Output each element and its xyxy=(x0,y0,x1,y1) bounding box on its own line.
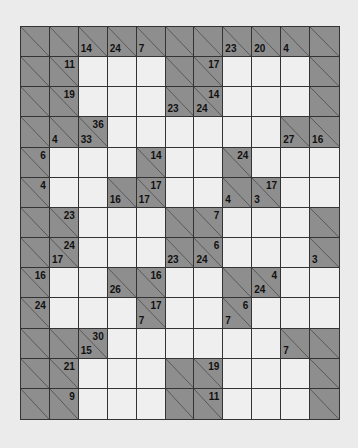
entry-cell[interactable] xyxy=(281,57,310,87)
entry-cell[interactable] xyxy=(108,57,137,87)
entry-cell[interactable] xyxy=(137,329,166,359)
blocked-cell xyxy=(21,238,50,268)
entry-cell[interactable] xyxy=(252,208,281,238)
across-clue: 17 xyxy=(266,181,277,191)
diagonal-divider-icon xyxy=(310,389,339,419)
entry-cell[interactable] xyxy=(108,117,137,147)
blocked-cell xyxy=(166,27,195,57)
entry-cell[interactable] xyxy=(50,268,79,298)
entry-cell[interactable] xyxy=(223,57,252,87)
entry-cell[interactable] xyxy=(252,148,281,178)
down-clue: 23 xyxy=(168,104,179,114)
entry-cell[interactable] xyxy=(281,268,310,298)
entry-cell[interactable] xyxy=(50,148,79,178)
entry-cell[interactable] xyxy=(79,57,108,87)
entry-cell[interactable] xyxy=(223,329,252,359)
diagonal-divider-icon xyxy=(21,389,49,419)
entry-cell[interactable] xyxy=(50,178,79,208)
entry-cell[interactable] xyxy=(281,148,310,178)
entry-cell[interactable] xyxy=(166,148,195,178)
entry-cell[interactable] xyxy=(79,298,108,328)
entry-cell[interactable] xyxy=(137,359,166,389)
entry-cell[interactable] xyxy=(79,208,108,238)
down-clue: 16 xyxy=(110,195,121,205)
entry-cell[interactable] xyxy=(223,208,252,238)
entry-cell[interactable] xyxy=(79,148,108,178)
entry-cell[interactable] xyxy=(166,298,195,328)
entry-cell[interactable] xyxy=(252,329,281,359)
entry-cell[interactable] xyxy=(252,298,281,328)
entry-cell[interactable] xyxy=(50,298,79,328)
entry-cell[interactable] xyxy=(281,87,310,117)
entry-cell[interactable] xyxy=(281,389,310,419)
diagonal-divider-icon xyxy=(310,27,339,56)
entry-cell[interactable] xyxy=(137,238,166,268)
clue-cell: 624 xyxy=(194,238,223,268)
entry-cell[interactable] xyxy=(166,329,195,359)
entry-cell[interactable] xyxy=(281,238,310,268)
entry-cell[interactable] xyxy=(252,238,281,268)
entry-cell[interactable] xyxy=(108,238,137,268)
clue-cell: 7 xyxy=(137,27,166,57)
clue-cell: 16 xyxy=(137,268,166,298)
entry-cell[interactable] xyxy=(310,268,339,298)
entry-cell[interactable] xyxy=(108,148,137,178)
entry-cell[interactable] xyxy=(194,268,223,298)
entry-cell[interactable] xyxy=(223,389,252,419)
clue-cell: 9 xyxy=(50,389,79,419)
entry-cell[interactable] xyxy=(166,178,195,208)
entry-cell[interactable] xyxy=(137,208,166,238)
entry-cell[interactable] xyxy=(137,117,166,147)
entry-cell[interactable] xyxy=(310,178,339,208)
entry-cell[interactable] xyxy=(194,298,223,328)
entry-cell[interactable] xyxy=(252,117,281,147)
blocked-cell xyxy=(194,27,223,57)
blocked-cell xyxy=(21,389,50,419)
entry-cell[interactable] xyxy=(281,178,310,208)
entry-cell[interactable] xyxy=(252,359,281,389)
entry-cell[interactable] xyxy=(79,238,108,268)
entry-cell[interactable] xyxy=(310,298,339,328)
entry-cell[interactable] xyxy=(108,87,137,117)
clue-cell: 2417 xyxy=(50,238,79,268)
entry-cell[interactable] xyxy=(108,208,137,238)
across-clue: 19 xyxy=(64,90,75,100)
entry-cell[interactable] xyxy=(137,389,166,419)
entry-cell[interactable] xyxy=(194,329,223,359)
entry-cell[interactable] xyxy=(79,87,108,117)
entry-cell[interactable] xyxy=(310,148,339,178)
entry-cell[interactable] xyxy=(108,329,137,359)
blocked-cell xyxy=(310,57,339,87)
entry-cell[interactable] xyxy=(194,117,223,147)
entry-cell[interactable] xyxy=(281,208,310,238)
entry-cell[interactable] xyxy=(194,148,223,178)
entry-cell[interactable] xyxy=(137,57,166,87)
across-clue: 17 xyxy=(150,301,161,311)
down-clue: 7 xyxy=(139,44,145,54)
entry-cell[interactable] xyxy=(137,87,166,117)
entry-cell[interactable] xyxy=(166,268,195,298)
entry-cell[interactable] xyxy=(281,298,310,328)
entry-cell[interactable] xyxy=(79,389,108,419)
entry-cell[interactable] xyxy=(223,87,252,117)
entry-cell[interactable] xyxy=(252,57,281,87)
diagonal-divider-icon xyxy=(21,359,49,388)
entry-cell[interactable] xyxy=(194,178,223,208)
entry-cell[interactable] xyxy=(79,268,108,298)
clue-cell: 16 xyxy=(21,268,50,298)
entry-cell[interactable] xyxy=(281,359,310,389)
entry-cell[interactable] xyxy=(79,359,108,389)
entry-cell[interactable] xyxy=(252,389,281,419)
entry-cell[interactable] xyxy=(223,117,252,147)
entry-cell[interactable] xyxy=(108,389,137,419)
entry-cell[interactable] xyxy=(252,87,281,117)
down-clue: 7 xyxy=(225,316,231,326)
down-clue: 14 xyxy=(81,44,92,54)
down-clue: 15 xyxy=(81,346,92,356)
entry-cell[interactable] xyxy=(223,359,252,389)
entry-cell[interactable] xyxy=(108,298,137,328)
entry-cell[interactable] xyxy=(79,178,108,208)
entry-cell[interactable] xyxy=(108,359,137,389)
entry-cell[interactable] xyxy=(166,117,195,147)
entry-cell[interactable] xyxy=(223,238,252,268)
